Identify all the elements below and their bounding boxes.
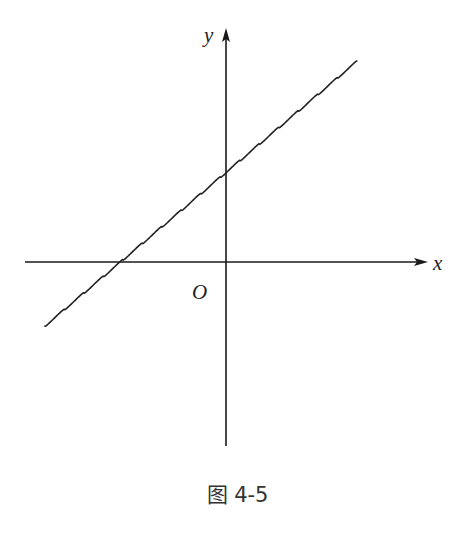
figure-caption: 图 4-5 (0, 478, 475, 508)
coordinate-figure: x y O (0, 0, 475, 533)
y-axis-label: y (202, 23, 214, 47)
origin-label: O (192, 280, 207, 304)
x-axis-label: x (432, 251, 443, 275)
